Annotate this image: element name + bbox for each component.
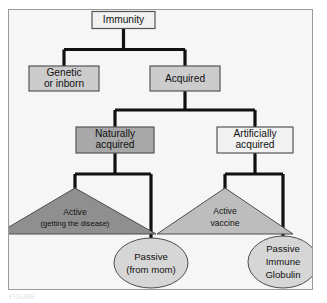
active-vaccine-label-line2: vaccine — [210, 218, 239, 228]
figure-root: Active (getting the disease) Active vacc… — [0, 0, 327, 303]
active-disease-node[interactable]: Active (getting the disease) — [9, 188, 156, 234]
immunity-flow-chart: Active (getting the disease) Active vacc… — [9, 10, 312, 289]
passive-mom-label-line2: (from mom) — [126, 264, 176, 275]
genetic-label-line1: Genetic — [46, 67, 81, 78]
root-node[interactable]: Immunity — [92, 12, 155, 29]
active-vaccine-node[interactable]: Active vaccine — [157, 188, 293, 234]
passive-globulin-label-line1: Passive — [266, 243, 300, 254]
acquired-label: Acquired — [165, 73, 206, 84]
passive-immune-globulin-node[interactable]: Passive Immune Globulin — [248, 236, 312, 288]
passive-mom-node[interactable]: Passive (from mom) — [114, 238, 188, 288]
diagram-panel: Active (getting the disease) Active vacc… — [8, 9, 313, 290]
figure-caption: FIGURE — [9, 293, 129, 301]
naturally-acquired-label-line1: Naturally — [95, 128, 136, 139]
passive-globulin-label-line3: Globulin — [265, 269, 300, 280]
artificially-acquired-label-line1: Artificially — [233, 128, 277, 139]
active-disease-label-line1: Active — [63, 207, 87, 217]
acquired-node[interactable]: Acquired — [150, 66, 220, 91]
passive-globulin-label-line2: Immune — [266, 256, 301, 267]
passive-mom-label-line1: Passive — [134, 251, 168, 262]
naturally-acquired-node[interactable]: Naturally acquired — [76, 127, 154, 153]
active-vaccine-label-line1: Active — [213, 206, 237, 216]
artificially-acquired-node[interactable]: Artificially acquired — [217, 127, 293, 153]
genetic-label-line2: or inborn — [44, 78, 84, 89]
root-label: Immunity — [103, 14, 145, 25]
artificially-acquired-label-line2: acquired — [235, 139, 274, 150]
genetic-node[interactable]: Genetic or inborn — [29, 66, 99, 91]
naturally-acquired-label-line2: acquired — [95, 139, 134, 150]
active-disease-label-line2: (getting the disease) — [41, 219, 110, 228]
